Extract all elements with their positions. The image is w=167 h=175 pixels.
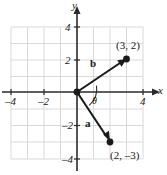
point-3-2-dot <box>123 56 130 63</box>
theta-label: θ <box>92 96 97 106</box>
vector-b <box>77 56 130 92</box>
y-tick-label-minus2: –2 <box>62 120 73 131</box>
vector-b-label: b <box>90 58 96 69</box>
point-2-minus3-dot <box>107 139 114 146</box>
y-tick-label-4: 4 <box>65 22 71 33</box>
origin-dot <box>74 89 81 96</box>
point-3-2-label: (3, 2) <box>116 40 140 51</box>
coordinate-plane-svg <box>0 0 167 175</box>
x-tick-label-4: 4 <box>140 96 146 107</box>
y-tick-label-2: 2 <box>65 55 71 66</box>
y-axis-label: y <box>72 0 77 11</box>
x-axis-label: x <box>158 85 163 96</box>
point-2-minus3-label: (2, –3) <box>110 150 139 161</box>
x-tick-label-minus4: –4 <box>5 96 16 107</box>
vector-a-label: a <box>85 118 91 129</box>
vector-diagram-figure: x y –4 –2 4 4 2 –2 –4 b a (3, 2) (2, –3)… <box>0 0 167 175</box>
x-tick-label-minus2: –2 <box>38 96 49 107</box>
y-tick-label-minus4: –4 <box>62 154 73 165</box>
